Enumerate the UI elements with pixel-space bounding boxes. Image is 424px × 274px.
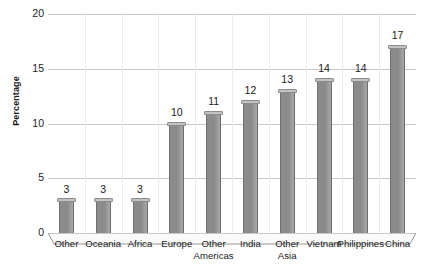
bar[interactable]: 17: [390, 47, 405, 233]
bar-body: [353, 80, 368, 233]
bar-body: [317, 80, 332, 233]
x-axis-category-label-line: China: [373, 238, 422, 250]
bar-body: [243, 102, 258, 233]
bar[interactable]: 3: [133, 200, 148, 233]
bar-value-label: 3: [63, 184, 69, 195]
bar-value-label: 12: [245, 85, 257, 96]
bar-top-face: [57, 198, 76, 202]
bar-top-face: [278, 89, 297, 93]
bar-body: [280, 91, 295, 233]
bar[interactable]: 3: [59, 200, 74, 233]
bar-top-face: [94, 198, 113, 202]
bar-value-label: 14: [355, 63, 367, 74]
x-axis-category-label-line: Americas: [189, 250, 238, 262]
bar[interactable]: 13: [280, 91, 295, 233]
bar-body: [169, 124, 184, 234]
bars-layer: 33310111213141417: [48, 14, 416, 233]
y-axis-tick-labels: 05101520: [18, 0, 44, 274]
bar-value-label: 3: [137, 184, 143, 195]
y-axis-tick-label: 15: [22, 63, 44, 74]
bar-value-label: 3: [100, 184, 106, 195]
bar-top-face: [131, 198, 150, 202]
x-axis-category-label-line: Asia: [263, 250, 312, 262]
bar[interactable]: 3: [96, 200, 111, 233]
bar-value-label: 14: [318, 63, 330, 74]
bar[interactable]: 14: [353, 80, 368, 233]
bar-value-label: 10: [171, 107, 183, 118]
y-axis-tick-label: 20: [22, 8, 44, 19]
bar-body: [96, 200, 111, 233]
bar-top-face: [351, 78, 370, 82]
bar-body: [390, 47, 405, 233]
y-axis-tick-label: 10: [22, 118, 44, 129]
bar-top-face: [315, 78, 334, 82]
bar[interactable]: 11: [206, 113, 221, 233]
bar-top-face: [241, 100, 260, 104]
y-axis-tick-label: 0: [22, 227, 44, 238]
bar-top-face: [167, 122, 186, 126]
bar-chart: Percentage 05101520 33310111213141417 Ot…: [0, 0, 424, 274]
bar-value-label: 11: [208, 96, 219, 107]
y-axis-tick-label: 5: [22, 172, 44, 183]
plot-area: 33310111213141417: [48, 14, 416, 233]
bar-value-label: 13: [281, 74, 293, 85]
x-axis-category-labels: OtherOceaniaAfricaEuropeOtherAmericasInd…: [48, 238, 416, 272]
bar-body: [133, 200, 148, 233]
bar-body: [59, 200, 74, 233]
bar-value-label: 17: [392, 30, 404, 41]
axis-baseline: [48, 233, 416, 234]
bar[interactable]: 10: [169, 124, 184, 234]
bar-top-face: [388, 45, 407, 49]
bar-top-face: [204, 111, 223, 115]
bar[interactable]: 14: [317, 80, 332, 233]
x-axis-category-label: China: [373, 238, 422, 250]
bar-body: [206, 113, 221, 233]
bar[interactable]: 12: [243, 102, 258, 233]
